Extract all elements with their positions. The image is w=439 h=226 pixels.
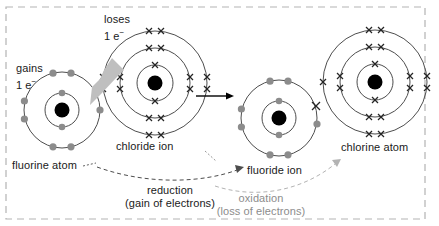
gains-annotation-line1: gains [16,62,43,75]
reduction-arrow-path [97,167,237,180]
fluoride-ion-nucleus [272,111,287,126]
fluorine-atom-leader [83,163,96,166]
chloride-ion-label: chloride ion [116,140,173,153]
reduction-label-line1: reduction [122,184,218,197]
gains-annotation-line2: 1 e− [16,75,36,92]
fluorine-atom-label: fluorine atom [12,159,77,172]
reduction-arrow [97,165,244,180]
gains-charge-superscript: − [32,77,37,86]
loses-electron-count: 1 e [104,30,120,42]
electron-transfer-arrow [90,58,124,105]
reaction-arrow [196,92,234,99]
gains-electron-count: 1 e [16,79,32,91]
chloride-ion-nucleus [148,76,163,91]
oxidation-arrow-head [332,159,341,167]
diagram-canvas: gains 1 e− loses 1 e− fluorine atom chlo… [0,0,439,226]
loses-annotation-line2: 1 e− [104,26,124,43]
oxidation-label-line2: (loss of electrons) [198,205,324,218]
fluorine-atom-nucleus [55,103,70,118]
label-leader-lines [83,151,216,166]
loses-annotation-line1: loses [104,13,130,26]
chlorine-atom-label: chlorine atom [341,141,408,154]
species-fluoride-ion [238,78,321,159]
fluoride-ion-label: fluoride ion [247,164,302,177]
chlorine-atom-nucleus [368,75,383,90]
species-chlorine-atom [320,27,430,137]
reduction-arrow-head [235,165,244,173]
chloride-ion-leader [205,151,216,161]
oxidation-label-line1: oxidation [216,192,306,205]
species-chloride-ion [100,28,210,138]
loses-charge-superscript: − [120,28,125,37]
